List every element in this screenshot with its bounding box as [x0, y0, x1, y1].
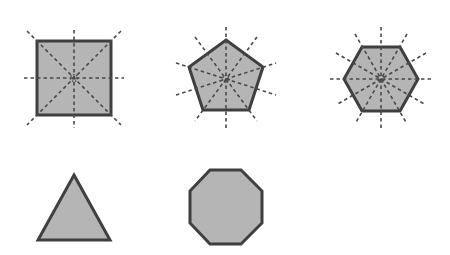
- hexagon-figure: [330, 27, 432, 131]
- octagon-polygon: [190, 170, 262, 244]
- octagon-figure: [190, 170, 262, 244]
- pentagon-figure: [176, 27, 276, 131]
- triangle-figure: [38, 175, 110, 240]
- triangle-polygon: [38, 175, 110, 240]
- square-figure: [24, 30, 124, 128]
- symmetry-diagram: [0, 0, 450, 255]
